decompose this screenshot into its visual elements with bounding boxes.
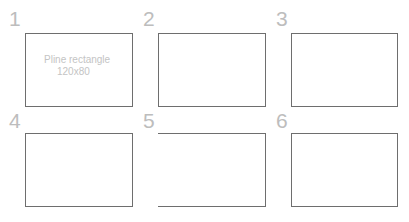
rectangle-4[interactable] [25,133,133,207]
open-rectangle-5[interactable] [158,133,266,207]
panel-number-6: 6 [276,110,288,131]
panel-number-1: 1 [9,8,21,29]
panel-number-2: 2 [143,8,155,29]
rectangle-caption-size: 120x80 [57,66,90,77]
rectangle-3[interactable] [291,33,398,107]
rectangle-2[interactable] [158,33,266,107]
rectangle-caption-title: Pline rectangle [44,54,110,65]
panel-number-3: 3 [276,8,288,29]
panel-number-4: 4 [9,110,21,131]
rectangle-6[interactable] [291,133,398,207]
panel-number-5: 5 [143,110,155,131]
